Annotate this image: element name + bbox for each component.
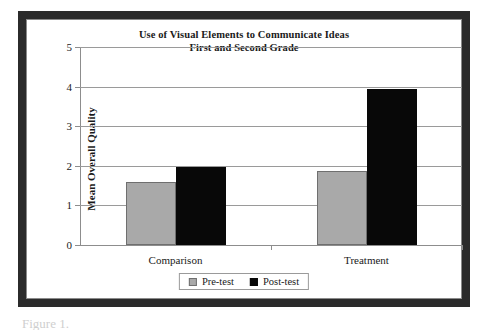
- y-tick-label-5: 5: [67, 41, 73, 53]
- x-tick-1: [462, 245, 463, 250]
- y-tick-label-1: 1: [67, 199, 73, 211]
- legend-swatch-post-test-icon: [250, 278, 258, 286]
- chart-page: Use of Visual Elements to Communicate Id…: [0, 0, 488, 335]
- bar-treatment-post-test: [367, 89, 417, 245]
- legend: Pre-test Post-test: [179, 273, 309, 290]
- x-axis-label-treatment: Treatment: [344, 254, 389, 266]
- legend-item-post-test: Post-test: [250, 276, 299, 287]
- plot-area: 012345 ComparisonTreatment: [80, 47, 462, 245]
- y-tick-5: [75, 47, 80, 48]
- y-tick-3: [75, 126, 80, 127]
- y-tick-4: [75, 87, 80, 88]
- y-tick-label-0: 0: [67, 239, 73, 251]
- y-tick-2: [75, 166, 80, 167]
- legend-item-pre-test: Pre-test: [189, 276, 234, 287]
- bar-comparison-post-test: [176, 167, 226, 245]
- bar-comparison-pre-test: [126, 182, 176, 245]
- y-tick-0: [75, 245, 80, 246]
- x-tick-0: [271, 245, 272, 250]
- x-axis-label-comparison: Comparison: [149, 254, 203, 266]
- bar-treatment-pre-test: [317, 171, 367, 245]
- caption-fragment: Figure 1.: [22, 316, 69, 330]
- legend-label-pre-test: Pre-test: [202, 276, 234, 287]
- figure-frame: Use of Visual Elements to Communicate Id…: [18, 11, 470, 307]
- y-tick-label-2: 2: [67, 160, 73, 172]
- figure-frame-inner: Use of Visual Elements to Communicate Id…: [26, 19, 462, 299]
- legend-label-post-test: Post-test: [263, 276, 299, 287]
- y-axis-line: [80, 47, 81, 245]
- gridline-4: [80, 87, 462, 88]
- gridline-5: [80, 47, 462, 48]
- y-tick-label-4: 4: [67, 81, 73, 93]
- legend-swatch-pre-test-icon: [189, 278, 197, 286]
- y-tick-label-3: 3: [67, 120, 73, 132]
- y-tick-1: [75, 205, 80, 206]
- chart-title-line1: Use of Visual Elements to Communicate Id…: [139, 29, 349, 40]
